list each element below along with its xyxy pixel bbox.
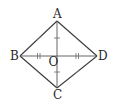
label-b: B [10,49,19,63]
rhombus-diagram: A B C D O [0,0,114,109]
label-d: D [98,49,108,63]
tick-side-ab [37,37,41,41]
tick-side-da [75,37,79,41]
tick-side-cd [75,70,79,74]
label-a: A [52,7,62,21]
label-o: O [49,55,59,69]
tick-side-bc [37,70,41,74]
label-c: C [53,88,62,102]
